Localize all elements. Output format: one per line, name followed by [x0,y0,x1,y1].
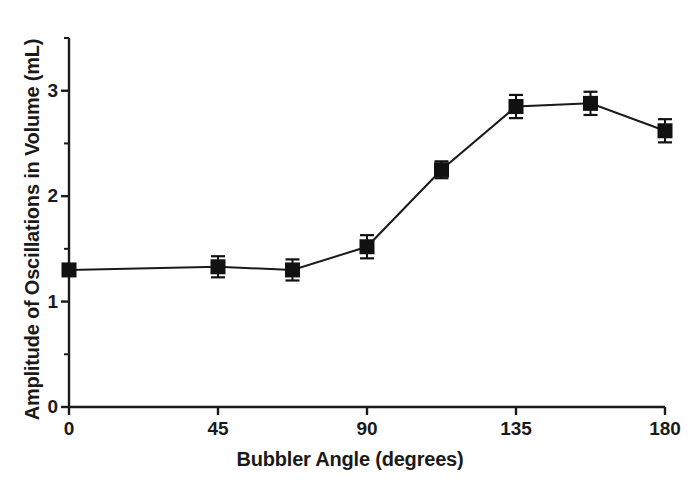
plot-area [0,0,700,488]
axis-lines [69,38,665,407]
figure-container: Amplitude of Oscillations in Volume (mL)… [0,0,700,488]
data-point [434,161,449,178]
data-point [360,235,375,258]
data-point [509,95,524,118]
marker-square [285,262,300,277]
marker-square [62,262,77,277]
data-point [211,256,226,277]
marker-square [658,123,673,138]
marker-square [211,259,226,274]
marker-square [509,99,524,114]
marker-square [360,239,375,254]
marker-square [434,162,449,177]
data-point [285,259,300,280]
data-series [62,92,673,281]
data-point [583,92,598,115]
data-point [62,262,77,277]
tick-marks [61,38,665,415]
data-point [658,119,673,142]
marker-square [583,96,598,111]
